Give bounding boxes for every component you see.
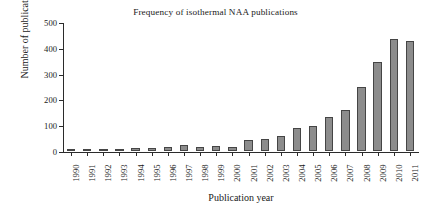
x-tick [200, 152, 201, 156]
bar [341, 110, 349, 151]
x-axis-title: Publication year [63, 192, 419, 203]
x-tick [119, 152, 120, 156]
x-tick [232, 152, 233, 156]
x-tick [313, 152, 314, 156]
x-tick [249, 152, 250, 156]
y-tick [59, 126, 63, 127]
x-axis-line [63, 152, 419, 153]
x-tick [394, 152, 395, 156]
plot-area: 0100200300400500 19901991199219931994199… [63, 23, 418, 152]
chart-title: Frequency of isothermal NAA publications [0, 7, 431, 17]
bar [115, 149, 123, 151]
x-tick [136, 152, 137, 156]
y-tick [59, 152, 63, 153]
y-tick-label: 500 [44, 18, 57, 28]
bar [164, 147, 172, 151]
x-tick [362, 152, 363, 156]
y-axis-line [63, 23, 64, 153]
y-tick-label: 300 [44, 70, 57, 80]
bar [390, 39, 398, 151]
x-tick [87, 152, 88, 156]
bar [293, 128, 301, 151]
x-tick [265, 152, 266, 156]
bar [196, 147, 204, 151]
y-tick-label: 200 [44, 95, 57, 105]
x-tick [103, 152, 104, 156]
y-tick-label: 100 [44, 121, 57, 131]
x-tick [297, 152, 298, 156]
x-tick [329, 152, 330, 156]
bar [406, 41, 414, 151]
x-tick [152, 152, 153, 156]
x-tick [71, 152, 72, 156]
chart-figure: Frequency of isothermal NAA publications… [0, 0, 431, 213]
x-tick [378, 152, 379, 156]
bar [357, 87, 365, 151]
x-tick [281, 152, 282, 156]
bar [148, 148, 156, 151]
x-tick [184, 152, 185, 156]
y-axis-title: Number of publications [18, 0, 32, 94]
bar [67, 149, 75, 151]
bar [277, 136, 285, 151]
bar [131, 148, 139, 151]
x-tick [345, 152, 346, 156]
y-tick-label: 0 [53, 147, 57, 157]
bar [244, 140, 252, 151]
y-tick [59, 75, 63, 76]
x-tick [410, 152, 411, 156]
x-tick [168, 152, 169, 156]
bar [180, 145, 188, 151]
y-tick [59, 23, 63, 24]
bar [99, 149, 107, 151]
bar [212, 146, 220, 151]
bar [325, 117, 333, 151]
x-tick [216, 152, 217, 156]
bar [373, 62, 381, 151]
bar [83, 149, 91, 151]
y-tick [59, 49, 63, 50]
bar [228, 147, 236, 151]
bar [309, 126, 317, 151]
y-tick [59, 100, 63, 101]
y-tick-label: 400 [44, 44, 57, 54]
bar [261, 139, 269, 151]
